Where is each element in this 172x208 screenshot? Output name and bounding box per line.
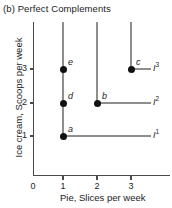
data-point-label-a: a [68,124,73,134]
curve-label-i3: I3 [153,63,159,73]
x-tick-2 [96,176,97,180]
data-point-label-e: e [68,57,73,67]
y-tick-3 [30,68,34,69]
y-axis-label: Ice cream, Scoops per week [13,33,24,163]
curve-label-i2-superscript: 2 [156,95,160,102]
curve-segment-vertical-i2 [96,22,97,103]
data-point-a [60,133,67,140]
perfect-complements-chart: (b) Perfect Complements I1 I2 I3 a d e b… [0,0,172,208]
y-tick-1 [30,135,34,136]
curve-segment-vertical-i3 [130,22,131,69]
x-tick-label-2: 2 [89,181,105,191]
x-axis-label: Pie, Slices per week [60,192,146,203]
y-tick-2 [30,102,34,103]
x-tick-label-3: 3 [123,181,139,191]
curve-label-i3-superscript: 3 [156,61,160,68]
data-point-d [60,100,67,107]
x-tick-1 [62,176,63,180]
curve-segment-horizontal-i2 [97,102,151,103]
curve-segment-vertical-i1 [62,22,63,136]
x-tick-3 [130,176,131,180]
x-tick-label-0: 0 [25,181,41,191]
curve-label-i1-superscript: 1 [156,128,160,135]
data-point-e [60,66,67,73]
curve-segment-horizontal-i1 [63,135,151,136]
data-point-b [94,100,101,107]
x-tick-label-1: 1 [55,181,71,191]
data-point-label-b: b [102,91,107,101]
data-point-label-c: c [136,57,141,67]
curve-label-i1: I1 [153,130,159,140]
curve-label-i2: I2 [153,97,159,107]
data-point-c [128,66,135,73]
data-point-label-d: d [68,91,73,101]
chart-title: (b) Perfect Complements [3,3,111,14]
x-axis-line [33,175,170,176]
y-axis-line [33,22,34,176]
